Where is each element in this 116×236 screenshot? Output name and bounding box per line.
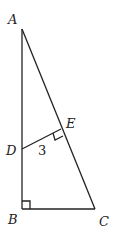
triangle-diagram: A E D 3 B C — [0, 0, 116, 236]
label-de-length: 3 — [38, 143, 46, 158]
segment-ac — [22, 29, 95, 209]
right-angle-mark-e — [53, 133, 63, 140]
right-angle-mark-b — [22, 201, 30, 209]
label-c: C — [99, 214, 109, 229]
label-a: A — [7, 12, 17, 27]
label-b: B — [7, 212, 18, 227]
label-e: E — [65, 116, 76, 131]
label-d: D — [5, 143, 17, 158]
